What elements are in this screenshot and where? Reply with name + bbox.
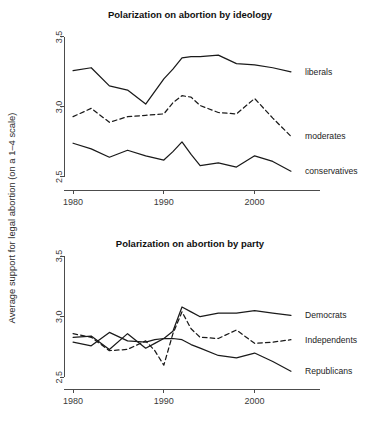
- x-axis-tick-label: 1980: [63, 197, 83, 207]
- y-axis-label: Average support for legal abortion (on a…: [6, 113, 17, 324]
- y-axis-tick-label: 3.0: [54, 101, 64, 114]
- y-axis-tick-label: 2.5: [54, 371, 64, 384]
- series-label-liberals: liberals: [305, 67, 332, 77]
- y-axis-tick-label: 3.5: [54, 250, 64, 263]
- series-label-conservatives: conservatives: [305, 166, 358, 176]
- series-label-republicans: Republicans: [305, 366, 352, 376]
- chart-title: Polarization on abortion by ideology: [108, 9, 273, 20]
- series-label-democrats: Democrats: [305, 310, 347, 320]
- x-axis-tick-label: 2000: [245, 396, 265, 406]
- x-axis-tick-label: 2000: [245, 197, 265, 207]
- y-axis-tick-label: 2.5: [54, 171, 64, 184]
- series-label-independents: Independents: [305, 335, 357, 345]
- x-axis-tick-label: 1980: [63, 396, 83, 406]
- chart-title: Polarization on abortion by party: [116, 238, 265, 249]
- x-axis-tick-label: 1990: [154, 197, 174, 207]
- two-panel-line-chart: Average support for legal abortion (on a…: [0, 0, 368, 435]
- y-axis-tick-label: 3.5: [54, 31, 64, 44]
- series-label-moderates: moderates: [305, 131, 346, 141]
- figure-panel: Average support for legal abortion (on a…: [0, 0, 368, 435]
- y-axis-tick-label: 3.0: [54, 310, 64, 323]
- x-axis-tick-label: 1990: [154, 396, 174, 406]
